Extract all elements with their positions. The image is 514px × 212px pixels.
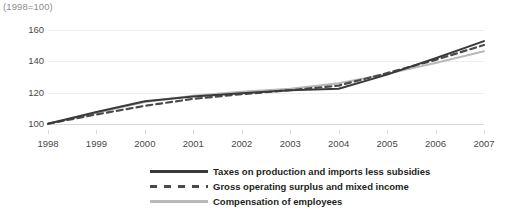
legend-item-2[interactable]: Compensation of employees: [150, 194, 480, 208]
y-axis-labels: 100120140160: [0, 24, 44, 130]
x-tick-label-2003: 2003: [264, 138, 316, 149]
x-tick-mark-1999: [96, 130, 97, 134]
series-line-2: [48, 51, 484, 123]
x-tick-label-2002: 2002: [216, 138, 268, 149]
x-tick-label-2001: 2001: [167, 138, 219, 149]
legend-label-2: Compensation of employees: [213, 196, 342, 207]
x-tick-mark-2007: [484, 130, 485, 134]
x-tick-label-1998: 1998: [22, 138, 74, 149]
x-tick-label-2005: 2005: [361, 138, 413, 149]
chart-legend: Taxes on production and imports less sub…: [150, 164, 480, 209]
x-tick-mark-2006: [436, 130, 437, 134]
x-tick-mark-2000: [145, 130, 146, 134]
x-axis-labels: 1998199920002001200220032004200520062007: [48, 138, 484, 152]
x-tick-mark-2004: [339, 130, 340, 134]
x-tick-mark-2005: [387, 130, 388, 134]
legend-label-1: Gross operating surplus and mixed income: [213, 181, 409, 192]
x-tick-label-1999: 1999: [70, 138, 122, 149]
y-tick-label-160: 160: [4, 24, 44, 35]
y-tick-label-140: 140: [4, 55, 44, 66]
plot-area: [48, 24, 484, 130]
x-tick-mark-1998: [48, 130, 49, 134]
series-lines: [48, 24, 484, 130]
x-tick-label-2004: 2004: [313, 138, 365, 149]
chart-axis-note: (1998=100): [3, 1, 53, 12]
chart-container: (1998=100) 100120140160 1998199920002001…: [0, 0, 514, 212]
legend-item-1[interactable]: Gross operating surplus and mixed income: [150, 179, 480, 193]
legend-swatch-icon-0: [150, 166, 208, 176]
x-tick-mark-2002: [242, 130, 243, 134]
x-tick-mark-2001: [193, 130, 194, 134]
series-line-1: [48, 45, 484, 124]
x-tick-mark-2003: [290, 130, 291, 134]
x-tick-label-2006: 2006: [410, 138, 462, 149]
legend-swatch-icon-2: [150, 196, 208, 206]
x-tick-label-2000: 2000: [119, 138, 171, 149]
legend-item-0[interactable]: Taxes on production and imports less sub…: [150, 164, 480, 178]
legend-swatch-icon-1: [150, 181, 208, 191]
y-tick-label-100: 100: [4, 118, 44, 129]
y-tick-label-120: 120: [4, 87, 44, 98]
legend-label-0: Taxes on production and imports less sub…: [213, 166, 430, 177]
x-tick-label-2007: 2007: [458, 138, 510, 149]
